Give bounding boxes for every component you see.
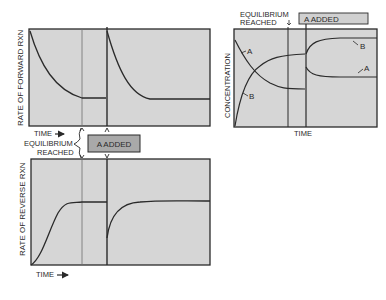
time-label-bottom: TIME	[36, 270, 54, 279]
equilibrium-label-line2: REACHED	[37, 148, 74, 157]
label-a-before: A	[247, 47, 253, 56]
brace-icon	[74, 128, 81, 158]
label-b-before: B	[249, 92, 254, 101]
arrow-icons	[80, 128, 84, 158]
label-a-after: A	[364, 64, 370, 73]
a-added-label-right: A ADDED	[304, 15, 339, 24]
reverse-rate-ylabel: RATE OF REVERSE RXN	[18, 162, 27, 256]
forward-rate-panel: RATE OF FORWARD RXN	[16, 27, 210, 126]
time-label-top: TIME	[34, 129, 52, 138]
label-b-after: B	[360, 42, 365, 51]
a-added-label: A ADDED	[97, 140, 132, 149]
concentration-ylabel: CONCENTRATION	[223, 53, 232, 118]
equilibrium-label-line1: EQUILIBRIUM	[24, 139, 73, 148]
concentration-xlabel: TIME	[294, 129, 312, 138]
equilibrium-diagram: RATE OF FORWARD RXN TIME EQUILIBRIUM REA…	[0, 0, 386, 300]
middle-annotations: TIME EQUILIBRIUM REACHED A ADDED	[24, 128, 140, 158]
concentration-panel: A ADDED EQUILIBRIUM REACHED A B B A CONC…	[223, 10, 377, 138]
reverse-rate-panel: RATE OF REVERSE RXN TIME	[18, 159, 210, 279]
forward-rate-ylabel: RATE OF FORWARD RXN	[16, 29, 25, 126]
equilibrium-label-right-2: REACHED	[240, 18, 277, 27]
